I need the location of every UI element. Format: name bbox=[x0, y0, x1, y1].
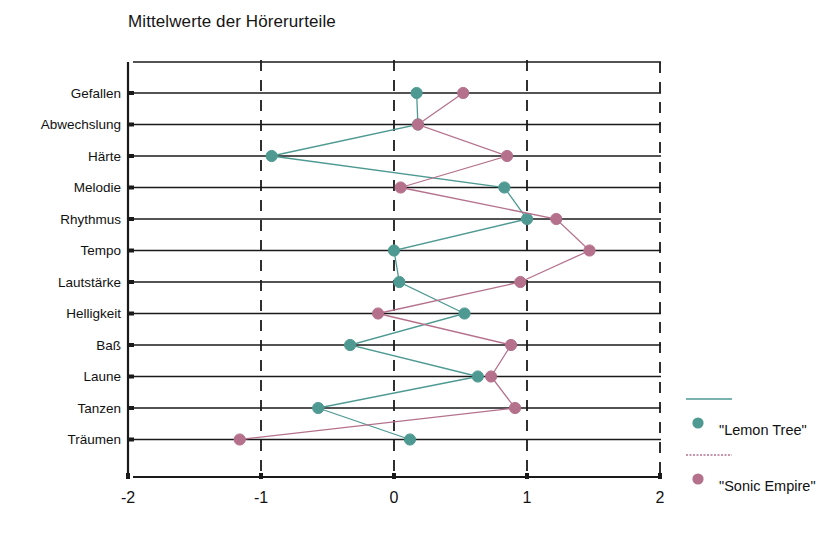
tick-label: -1 bbox=[254, 489, 268, 506]
data-point bbox=[388, 245, 399, 256]
grid-layer bbox=[128, 60, 661, 477]
tick-label: -2 bbox=[121, 489, 135, 506]
category-label: Härte bbox=[88, 149, 121, 164]
data-point bbox=[266, 150, 277, 161]
legend-label: "Lemon Tree" bbox=[719, 422, 807, 438]
data-point bbox=[505, 339, 516, 350]
data-point bbox=[313, 402, 324, 413]
series-layer bbox=[234, 87, 595, 445]
data-point bbox=[499, 182, 510, 193]
chart-legend: "Lemon Tree""Sonic Empire" bbox=[686, 399, 816, 494]
category-label: Lautstärke bbox=[58, 275, 121, 290]
category-label: Laune bbox=[83, 369, 121, 384]
category-label: Helligkeit bbox=[66, 306, 121, 321]
category-label: Gefallen bbox=[71, 86, 121, 101]
legend-marker-swatch bbox=[692, 417, 703, 428]
series-line-lemon-tree bbox=[272, 93, 527, 440]
category-label: Tanzen bbox=[77, 401, 121, 416]
data-point bbox=[501, 150, 512, 161]
category-axis-labels: GefallenAbwechslungHärteMelodieRhythmusT… bbox=[41, 86, 122, 448]
legend-marker-swatch bbox=[692, 473, 703, 484]
data-point bbox=[551, 213, 562, 224]
legend-label: "Sonic Empire" bbox=[719, 478, 816, 494]
data-point bbox=[521, 213, 532, 224]
data-point bbox=[412, 119, 423, 130]
chart-plot-area: GefallenAbwechslungHärteMelodieRhythmusT… bbox=[0, 0, 836, 537]
category-label: Rhythmus bbox=[60, 212, 121, 227]
data-point bbox=[515, 276, 526, 287]
tick-label: 0 bbox=[390, 489, 399, 506]
category-label: Abwechslung bbox=[41, 117, 121, 132]
data-point bbox=[345, 339, 356, 350]
data-point bbox=[509, 402, 520, 413]
chart-container: Mittelwerte der Hörerurteile GefallenAbw… bbox=[0, 0, 836, 537]
data-point bbox=[404, 434, 415, 445]
tick-label: 2 bbox=[656, 489, 665, 506]
data-point bbox=[584, 245, 595, 256]
data-point bbox=[472, 371, 483, 382]
data-point bbox=[395, 182, 406, 193]
series-line-sonic-empire bbox=[240, 93, 590, 440]
value-axis-tick-labels: -2-1012 bbox=[121, 489, 665, 506]
tick-label: 1 bbox=[523, 489, 532, 506]
data-point bbox=[372, 308, 383, 319]
category-label: Baß bbox=[96, 338, 121, 353]
category-label: Träumen bbox=[67, 432, 121, 447]
category-label: Melodie bbox=[74, 180, 121, 195]
data-point bbox=[458, 87, 469, 98]
data-point bbox=[394, 276, 405, 287]
data-point bbox=[234, 434, 245, 445]
data-point bbox=[459, 308, 470, 319]
category-label: Tempo bbox=[80, 243, 121, 258]
data-point bbox=[485, 371, 496, 382]
data-point bbox=[411, 87, 422, 98]
